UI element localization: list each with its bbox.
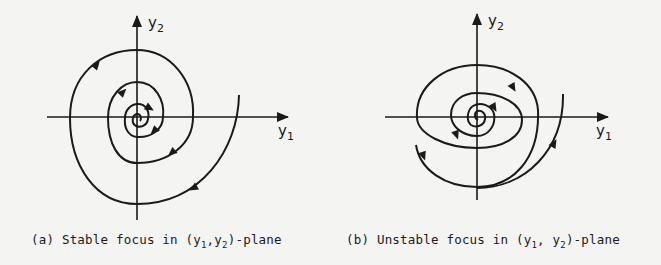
- arrow-icon: [144, 103, 156, 114]
- panel-a-caption: (a) Stable focus in (y1,y2)-plane: [31, 232, 282, 250]
- panel-b-caption: (b) Unstable focus in (y1, y2)-plane: [346, 232, 620, 250]
- panel-a-y-axis-label: y2: [148, 14, 164, 35]
- panel-b-y-axis-label: y2: [488, 12, 504, 33]
- arrow-icon: [117, 86, 129, 98]
- panel-a-direction-arrows: [91, 59, 199, 194]
- panel-b-unstable-focus: [385, 14, 608, 200]
- panel-a-stable-focus: [47, 16, 288, 220]
- arrow-icon: [508, 82, 519, 94]
- panel-b-x-axis-label: y1: [596, 122, 612, 143]
- panel-a-x-axis-label: y1: [278, 122, 294, 143]
- figure-canvas: [0, 0, 661, 265]
